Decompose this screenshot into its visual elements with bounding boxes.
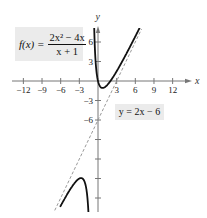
fraction-numerator: 2x² − 4x (48, 31, 85, 45)
x-tick-label: 9 (152, 85, 157, 95)
x-tick-label: 12 (168, 85, 177, 95)
x-tick-label: 6 (133, 85, 138, 95)
x-tick-label: 3 (114, 85, 119, 95)
function-label: f(x) = 2x² − 4x x + 1 (15, 27, 83, 61)
fraction: 2x² − 4x x + 1 (48, 31, 85, 58)
curve-left-branch (60, 178, 91, 218)
y-tick-label: −6 (83, 115, 93, 125)
x-tick-label: −9 (37, 85, 47, 95)
x-axis-label: x (194, 75, 200, 86)
y-axis-arrow-icon (96, 26, 100, 33)
fraction-denominator: x + 1 (56, 45, 78, 58)
function-label-lhs: f(x) = (19, 38, 44, 50)
asymptote-equation: y = 2x − 6 (119, 106, 160, 117)
x-tick-label: −3 (75, 85, 85, 95)
x-axis-arrow-icon (185, 79, 192, 83)
x-tick-label: −12 (16, 85, 30, 95)
y-tick-label: −3 (83, 96, 93, 106)
asymptote-label: y = 2x − 6 (115, 104, 164, 120)
y-tick-label: 3 (89, 57, 94, 67)
y-tick-label: 6 (89, 37, 94, 47)
x-tick-label: −6 (56, 85, 66, 95)
y-axis-label: y (95, 11, 101, 22)
